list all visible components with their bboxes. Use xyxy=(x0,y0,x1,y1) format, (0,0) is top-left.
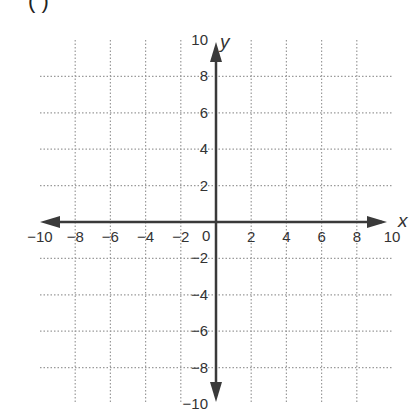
x-tick-label: −6 xyxy=(102,228,119,245)
x-tick-label: 2 xyxy=(247,228,255,245)
coordinate-plane: ( ) xy0−10−8−6−4−2246810108642−2−4−6−8−1… xyxy=(0,0,417,417)
x-tick-label: 6 xyxy=(317,228,325,245)
origin-label: 0 xyxy=(202,227,210,244)
y-tick-label: 8 xyxy=(200,67,208,84)
y-tick-label: 2 xyxy=(200,177,208,194)
y-tick-label: −10 xyxy=(183,395,208,412)
x-tick-label: −2 xyxy=(172,228,189,245)
y-tick-label: 6 xyxy=(200,104,208,121)
coordinate-grid: xy0−10−8−6−4−2246810108642−2−4−6−8−10 xyxy=(0,0,417,417)
y-axis-down-arrow-icon xyxy=(210,382,222,402)
x-axis-left-arrow-icon xyxy=(40,216,60,228)
y-tick-label: −8 xyxy=(191,359,208,376)
y-tick-label: 4 xyxy=(200,140,208,157)
y-tick-label: −4 xyxy=(191,286,208,303)
x-tick-label: −8 xyxy=(67,228,84,245)
y-axis-label: y xyxy=(218,31,231,52)
x-tick-label: −10 xyxy=(27,228,52,245)
x-axis-right-arrow-icon xyxy=(367,216,387,228)
x-tick-label: 8 xyxy=(353,228,361,245)
x-tick-label: −4 xyxy=(137,228,154,245)
y-tick-label: −2 xyxy=(191,249,208,266)
x-tick-label: 4 xyxy=(282,228,290,245)
x-tick-label: 10 xyxy=(384,228,401,245)
y-tick-label: 10 xyxy=(191,31,208,48)
y-tick-label: −6 xyxy=(191,322,208,339)
partial-figure-label: ( ) xyxy=(28,0,49,14)
